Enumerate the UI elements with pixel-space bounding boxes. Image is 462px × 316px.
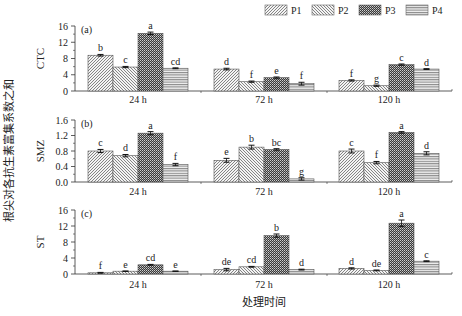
legend-label: P1 (291, 5, 302, 16)
significance-letter: f (350, 68, 354, 79)
legend-swatch (359, 5, 381, 15)
y-tick-label: 1.2 (56, 130, 69, 141)
y-tick-label: 0.8 (56, 146, 69, 157)
bar-p4 (163, 165, 188, 182)
significance-letter: e (123, 259, 128, 270)
significance-letter: bc (272, 137, 282, 148)
x-tick-label: 24 h (129, 94, 147, 105)
y-tick-label: 4 (63, 253, 68, 264)
x-tick-label: 72 h (255, 186, 273, 197)
significance-letter: e (173, 259, 178, 270)
significance-letter: f (174, 151, 178, 162)
panel-label: (c) (81, 208, 92, 220)
bar-p3 (138, 265, 163, 274)
bar-p3 (264, 236, 289, 274)
y-tick-label: 8 (63, 53, 68, 64)
bar-p3 (389, 223, 414, 274)
significance-letter: f (375, 149, 379, 160)
bar-p3 (138, 133, 163, 182)
bar-p4 (414, 261, 439, 274)
bar-group-72h: ebbcg (214, 133, 314, 182)
bar-p3 (264, 149, 289, 182)
bar-p1 (339, 151, 364, 182)
bar-p1 (88, 151, 113, 182)
panel-c-st: 0481216ST(c)fecde24 hdecdbd72 hddeac120 … (34, 205, 452, 291)
bar-group-24h: bcacd (88, 20, 188, 91)
significance-letter: d (349, 256, 354, 267)
significance-letter: d (224, 56, 229, 67)
y-tick-label: 0 (63, 269, 68, 280)
significance-letter: c (123, 54, 128, 65)
y-tick-label: 12 (58, 37, 68, 48)
x-tick-label: 24 h (129, 186, 147, 197)
bar-p2 (239, 147, 264, 182)
y-tick-label: 12 (58, 221, 68, 232)
bar-p2 (239, 82, 264, 91)
significance-letter: c (424, 249, 429, 260)
panel-b-smz: 0.00.40.81.21.6SMZ(b)cdaf24 hebbcg72 hcf… (34, 115, 452, 198)
bar-group-24h: fecde (88, 252, 188, 274)
bar-p3 (138, 33, 163, 91)
significance-letter: cd (247, 254, 256, 265)
bar-p1 (214, 69, 239, 91)
significance-letter: a (399, 208, 404, 219)
y-axis-label: SMZ (34, 139, 46, 162)
legend-item-p1: P1 (265, 5, 302, 16)
bar-p4 (414, 69, 439, 91)
bar-group-120h: cfad (339, 120, 439, 182)
x-tick-label: 72 h (255, 94, 273, 105)
bar-group-120h: fgcd (339, 52, 439, 91)
significance-letter: b (98, 42, 103, 53)
bar-group-120h: ddeac (339, 208, 439, 274)
bar-p4 (163, 68, 188, 91)
significance-letter: a (148, 120, 153, 131)
significance-letter: b (274, 222, 279, 233)
x-tick-label: 120 h (378, 186, 401, 197)
bar-p1 (88, 55, 113, 91)
y-tick-label: 8 (63, 237, 68, 248)
x-tick-label: 120 h (378, 94, 401, 105)
figure-canvas: 根尖对各抗生素富集系数之和 P1P2P3P4 0481216CTC(a)bcac… (0, 0, 462, 316)
significance-letter: e (224, 146, 229, 157)
panel-label: (b) (81, 118, 93, 130)
significance-letter: g (374, 73, 379, 84)
legend-swatch (406, 5, 428, 15)
y-axis-title: 根尖对各抗生素富集系数之和 (2, 79, 15, 222)
bar-p3 (389, 65, 414, 91)
x-tick-label: 24 h (129, 279, 147, 290)
significance-letter: f (99, 260, 103, 271)
y-tick-label: 0 (63, 86, 68, 97)
significance-letter: d (299, 257, 304, 268)
bar-p2 (113, 156, 138, 182)
significance-letter: a (399, 120, 404, 131)
bar-p3 (389, 132, 414, 182)
significance-letter: c (349, 137, 354, 148)
significance-letter: b (249, 133, 254, 144)
x-axis-title: 处理时间 (242, 296, 286, 308)
significance-letter: d (424, 57, 429, 68)
legend-item-p4: P4 (406, 5, 443, 16)
significance-letter: c (98, 137, 103, 148)
panel-label: (a) (81, 24, 92, 36)
x-tick-label: 72 h (255, 279, 273, 290)
y-tick-label: 0.0 (56, 177, 69, 188)
x-tick-label: 120 h (378, 279, 401, 290)
bar-p3 (264, 78, 289, 91)
significance-letter: f (300, 70, 304, 81)
legend-item-p2: P2 (312, 5, 349, 16)
legend-item-p3: P3 (359, 5, 396, 16)
significance-letter: cd (146, 252, 155, 263)
bar-group-72h: decdbd (214, 222, 314, 274)
y-tick-label: 16 (58, 21, 68, 32)
bar-group-24h: cdaf (88, 120, 188, 182)
bar-p1 (214, 160, 239, 182)
legend-label: P4 (432, 5, 443, 16)
svg-text:根尖对各抗生素富集系数之和: 根尖对各抗生素富集系数之和 (2, 79, 15, 222)
significance-letter: de (372, 258, 382, 269)
significance-letter: e (274, 65, 279, 76)
bar-p2 (364, 163, 389, 182)
y-tick-label: 0.4 (56, 161, 69, 172)
significance-letter: f (250, 69, 254, 80)
significance-letter: cd (171, 56, 180, 67)
significance-letter: d (123, 142, 128, 153)
